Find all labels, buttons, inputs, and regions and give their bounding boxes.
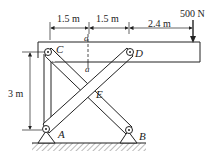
frame-diagram: 1.5 m 1.5 m 2.4 m 3 m 500 N C D A B E a … <box>0 0 221 158</box>
dim-label-3: 2.4 m <box>148 18 171 29</box>
point-a-label: A <box>57 128 65 140</box>
pin-d <box>127 49 134 56</box>
point-d-label: D <box>134 47 143 59</box>
dim-label-vertical: 3 m <box>8 88 24 99</box>
point-e-label: E <box>95 88 103 100</box>
member-ca <box>44 54 51 128</box>
section-label-top: a <box>84 33 89 43</box>
point-b-label: B <box>139 130 146 142</box>
section-label-bottom: a <box>85 64 90 74</box>
load-label: 500 N <box>180 8 205 19</box>
pin-c <box>45 49 52 56</box>
dim-label-1: 1.5 m <box>57 13 80 24</box>
point-c-label: C <box>56 43 64 55</box>
pin-b <box>126 127 133 134</box>
dim-label-2: 1.5 m <box>96 13 119 24</box>
load-arrow <box>190 20 196 43</box>
pin-a <box>43 126 50 133</box>
ground <box>32 143 146 151</box>
